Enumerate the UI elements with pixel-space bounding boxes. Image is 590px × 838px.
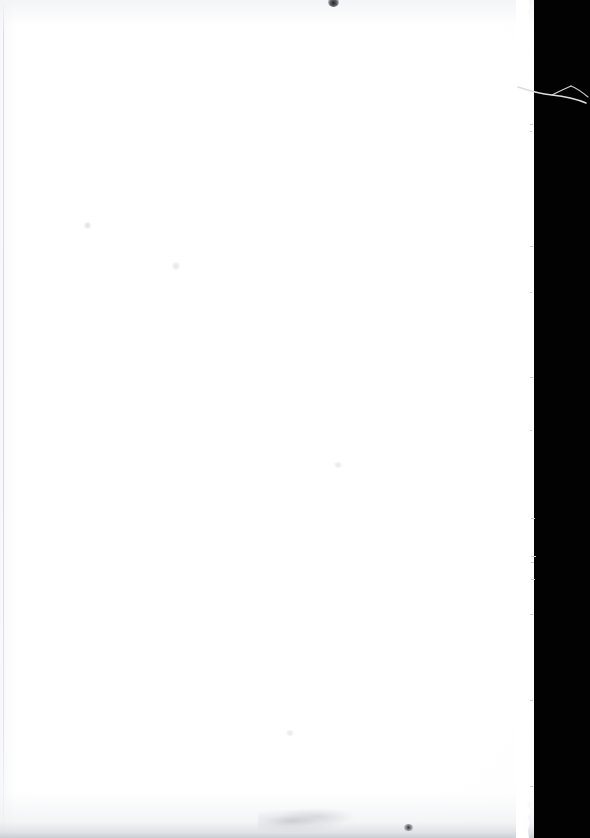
page-body-text [60, 70, 460, 760]
paper-sheet [0, 0, 534, 838]
binding-line [3, 0, 4, 838]
scanned-page-canvas [0, 0, 590, 838]
bottom-shadow-band [0, 822, 534, 838]
